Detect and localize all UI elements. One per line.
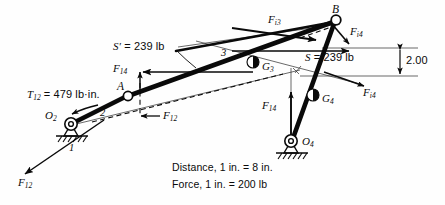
pin-joint-B — [331, 15, 341, 25]
s-prime-leader-line — [176, 50, 196, 68]
Fi4-lower-arrow — [324, 72, 364, 86]
joint-label-B: B — [332, 4, 339, 16]
F14-at-O4-label: F14 — [262, 100, 276, 112]
engineering-diagram-figure: O2 A B O4 G3 G4 1 2 3 S′ = 239 lb S = 23… — [0, 0, 445, 205]
joint-label-O4: O4 — [302, 136, 314, 148]
distance-scale-note: Distance, 1 in. = 8 in. — [172, 162, 273, 173]
force-scale-note: Force, 1 in. = 200 lb — [172, 179, 267, 190]
diagram-canvas — [0, 0, 445, 205]
link-3-number: 3 — [221, 48, 226, 59]
joint-label-A: A — [117, 81, 124, 93]
mass-center-label-G4: G4 — [322, 93, 334, 105]
linkage-members — [71, 21, 336, 141]
F12-reaction-label: F12 — [18, 177, 32, 189]
ground-pivot-O2 — [56, 118, 88, 142]
mass-center-G3 — [247, 56, 259, 68]
input-torque-label: T12 = 479 lb·in. — [27, 89, 100, 101]
F12-dashed-label: F12 — [163, 110, 177, 122]
joint-label-O2: O2 — [45, 110, 57, 122]
Fi4-lower-label: Fi4 — [363, 87, 376, 99]
dimension-2-00-label: 2.00 — [406, 55, 428, 66]
Fi4-upper-label: Fi4 — [350, 26, 363, 38]
link-3-upper-edge — [176, 22, 334, 51]
pin-joint-A — [123, 91, 132, 100]
F14-at-A-label: F14 — [113, 63, 127, 75]
Fi4-upper-arrow — [332, 24, 349, 44]
mass-center-G4 — [307, 89, 319, 101]
link-1-number: 1 — [69, 143, 74, 154]
link-2-number: 2 — [100, 108, 105, 119]
mass-center-label-G3: G3 — [262, 61, 274, 73]
s-force-label: S = 239 lb — [305, 52, 354, 63]
Fi3-inertia-label: Fi3 — [268, 14, 281, 26]
F12-reaction-arrow — [25, 120, 104, 174]
s-prime-force-label: S′ = 239 lb — [113, 41, 165, 52]
